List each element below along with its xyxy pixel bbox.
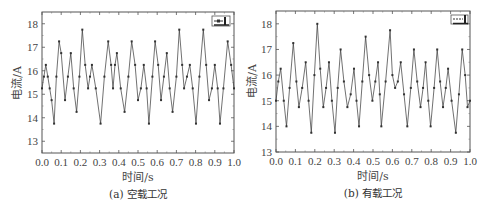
plot-frame xyxy=(42,12,234,153)
x-axis-title: 时间/s xyxy=(357,170,389,183)
y-tick-label: 16 xyxy=(27,65,39,77)
y-axis-title: 电流/A xyxy=(245,63,259,98)
y-tick-label: 16 xyxy=(261,69,273,81)
y-tick-label: 18 xyxy=(27,18,39,30)
y-tick-label: 14 xyxy=(27,112,39,124)
y-tick-label: 13 xyxy=(27,135,39,147)
x-tick-label: 1.0 xyxy=(463,155,477,167)
chart-panel-a: 0.00.10.20.30.40.50.60.70.80.91.0 131415… xyxy=(0,0,244,207)
y-tick-label: 17 xyxy=(261,43,273,55)
x-tick-label: 0.9 xyxy=(208,156,222,168)
chart-a-svg: 0.00.10.20.30.40.50.60.70.80.91.0 131415… xyxy=(0,0,244,207)
x-tick-labels: 0.00.10.20.30.40.50.60.70.80.91.0 xyxy=(35,156,241,168)
data-series-line xyxy=(275,23,471,134)
axis-ticks xyxy=(42,12,234,153)
y-tick-label: 14 xyxy=(261,120,273,132)
x-tick-label: 0.5 xyxy=(366,155,380,167)
x-tick-label: 0.6 xyxy=(386,155,400,167)
x-tick-label: 0.1 xyxy=(289,155,303,167)
x-tick-label: 0.9 xyxy=(444,155,458,167)
legend xyxy=(212,16,230,26)
x-tick-label: 0.1 xyxy=(54,156,68,168)
x-tick-label: 0.3 xyxy=(93,156,107,168)
y-tick-label: 17 xyxy=(27,41,39,53)
x-tick-label: 0.4 xyxy=(347,155,361,167)
figure-caption: (b) 有载工况 xyxy=(344,187,403,199)
x-tick-label: 0.6 xyxy=(150,156,164,168)
figure-caption: (a) 空载工况 xyxy=(109,188,168,200)
x-tick-label: 0.8 xyxy=(424,155,438,167)
x-tick-label: 0.4 xyxy=(112,156,126,168)
x-tick-label: 0.2 xyxy=(308,155,322,167)
legend xyxy=(451,15,468,24)
x-tick-label: 0.0 xyxy=(35,156,49,168)
x-tick-label: 0.7 xyxy=(405,155,419,167)
x-tick-label: 0.8 xyxy=(189,156,203,168)
y-tick-label: 13 xyxy=(261,146,273,158)
x-tick-label: 0.2 xyxy=(74,156,88,168)
y-tick-labels: 131415161718 xyxy=(261,18,273,158)
x-tick-label: 0.7 xyxy=(170,156,184,168)
x-tick-labels: 0.00.10.20.30.40.50.60.70.80.91.0 xyxy=(269,155,477,167)
chart-b-svg: 0.00.10.20.30.40.50.60.70.80.91.0 131415… xyxy=(244,0,488,207)
y-tick-label: 18 xyxy=(261,18,273,30)
x-tick-label: 1.0 xyxy=(227,156,241,168)
data-series-line xyxy=(41,29,235,125)
x-tick-label: 0.5 xyxy=(131,156,145,168)
x-tick-label: 0.3 xyxy=(327,155,341,167)
y-tick-labels: 131415161718 xyxy=(27,18,39,148)
chart-panel-b: 0.00.10.20.30.40.50.60.70.80.91.0 131415… xyxy=(244,0,488,207)
x-axis-title: 时间/s xyxy=(122,171,154,184)
y-tick-label: 15 xyxy=(261,95,273,107)
y-tick-label: 15 xyxy=(27,88,39,100)
y-axis-title: 电流/A xyxy=(10,65,24,100)
